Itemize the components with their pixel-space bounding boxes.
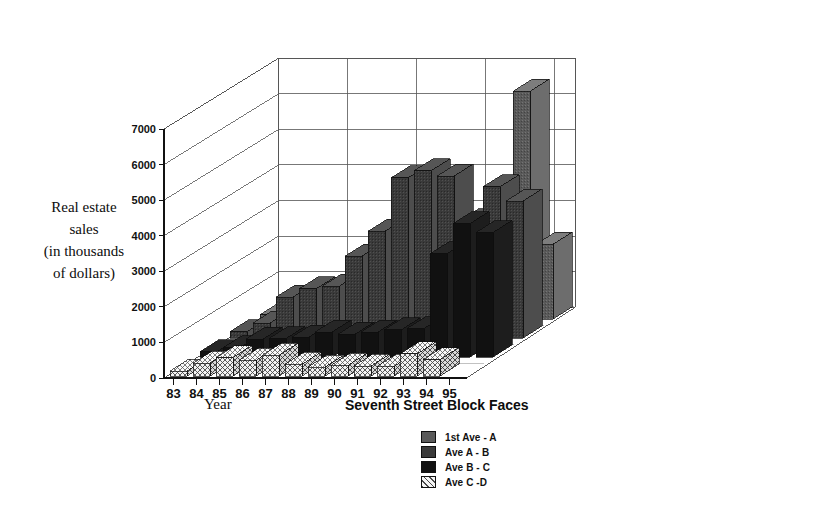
y-axis-tick-label: 5000 [132, 194, 156, 206]
legend-swatch-ave-c-d [421, 476, 436, 488]
legend-label-ave-b-c: Ave B - C [445, 462, 490, 473]
x-axis-tick-label: 88 [281, 386, 295, 401]
chart-3d-bar: 0100020003000400050006000700083848586878… [0, 0, 821, 525]
y-axis-tick-label: 6000 [132, 159, 156, 171]
x-axis-tick-label: 93 [396, 386, 410, 401]
y-axis-tick-label: 2000 [132, 301, 156, 313]
legend-item-2[interactable]: Ave B - C [421, 460, 497, 474]
y-axis-tick-label: 4000 [132, 230, 156, 242]
legend-label-ave-c-d: Ave C -D [445, 477, 487, 488]
x-axis-tick-label: 87 [258, 386, 272, 401]
legend-item-1[interactable]: Ave A - B [421, 445, 497, 459]
y-axis-tick-label: 3000 [132, 265, 156, 277]
x-axis-tick-label: 91 [350, 386, 364, 401]
y-axis-tick-label: 1000 [132, 336, 156, 348]
chart-legend: 1st Ave - A Ave A - B Ave B - C Ave C -D [421, 430, 497, 489]
y-axis-tick-label: 7000 [132, 123, 156, 135]
legend-item-0[interactable]: 1st Ave - A [421, 430, 497, 444]
legend-swatch-ave-b-c [421, 461, 436, 473]
legend-label-1st-ave-a: 1st Ave - A [445, 432, 497, 443]
legend-swatch-1st-ave-a [421, 431, 436, 443]
x-axis-tick-label: 86 [235, 386, 249, 401]
x-axis-tick-label: 85 [212, 386, 226, 401]
bar-3d [476, 221, 512, 358]
legend-label-ave-a-b: Ave A - B [445, 447, 489, 458]
x-axis-tick-label: 95 [442, 386, 456, 401]
y-axis-tick-label: 0 [150, 372, 156, 384]
legend-swatch-ave-a-b [421, 446, 436, 458]
x-axis-tick-label: 90 [327, 386, 341, 401]
x-axis-tick-label: 83 [166, 386, 180, 401]
x-axis-tick-label: 89 [304, 386, 318, 401]
x-axis-tick-label: 84 [189, 386, 204, 401]
legend-item-3[interactable]: Ave C -D [421, 475, 497, 489]
x-axis-tick-label: 92 [373, 386, 387, 401]
x-axis-tick-label: 94 [419, 386, 434, 401]
